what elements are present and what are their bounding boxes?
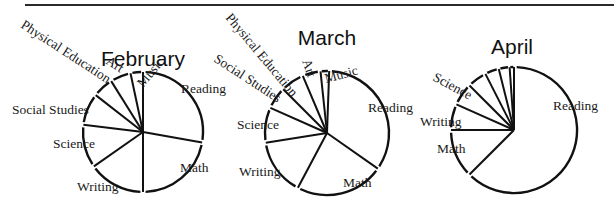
slice-label: Writing — [420, 114, 462, 129]
pie-april: April ReadingMathWritingScience — [420, 35, 598, 193]
pie-slice-divider — [456, 104, 514, 130]
pie-title-march: March — [298, 26, 356, 49]
pie-march: March ReadingMathWritingScienceSocial St… — [211, 10, 413, 195]
pie-slice-divider — [470, 130, 515, 175]
slice-label: Art — [299, 57, 319, 79]
slice-label: Math — [343, 175, 372, 190]
pie-slice-divider — [327, 133, 378, 169]
pie-slice-divider — [94, 132, 143, 166]
slice-label: Social Studies — [12, 102, 89, 117]
slice-label: Reading — [553, 98, 598, 113]
pie-slice-divider — [143, 132, 202, 142]
pie-slice-arc — [500, 67, 508, 68]
slice-label: Writing — [239, 164, 281, 179]
slice-label: Science — [431, 69, 475, 102]
slice-label: Science — [53, 136, 95, 151]
slice-label: Music — [323, 63, 359, 86]
slice-label: Math — [437, 141, 466, 156]
slice-label: Reading — [368, 100, 413, 115]
slice-label: Physical Education — [18, 17, 113, 86]
pie-slice-divider — [266, 133, 327, 143]
pie-slice-arc — [114, 74, 129, 80]
pie-slice-divider — [298, 133, 327, 188]
pie-february: February ReadingMathWritingScienceSocial… — [12, 17, 226, 194]
slice-label: Writing — [77, 179, 119, 194]
pie-slice-arc — [487, 69, 496, 73]
slice-label: Reading — [181, 81, 226, 96]
pie-charts: February ReadingMathWritingScienceSocial… — [0, 0, 614, 219]
pie-title-april: April — [491, 35, 533, 58]
pie-slice-arc — [471, 75, 483, 83]
pie-labels-february: ReadingMathWritingScienceSocial StudiesP… — [12, 17, 226, 194]
pie-slice-arc — [332, 71, 389, 166]
slice-label: Math — [180, 160, 209, 175]
slice-label: Science — [237, 117, 279, 132]
pie-slice-divider — [470, 86, 515, 131]
